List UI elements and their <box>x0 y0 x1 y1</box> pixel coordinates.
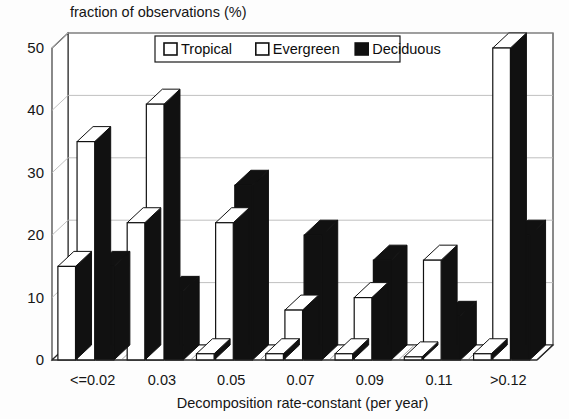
bar-side-face <box>510 33 526 360</box>
y-tick-label: 20 <box>27 226 44 243</box>
legend-item[interactable]: Tropical <box>164 41 232 57</box>
legend-label: Deciduous <box>372 41 441 57</box>
bar-front-face <box>196 354 214 360</box>
legend-swatch <box>256 43 269 55</box>
y-tick-label: 40 <box>27 101 44 118</box>
legend-label: Evergreen <box>273 41 340 57</box>
bar-front-face <box>335 354 353 360</box>
bar <box>216 208 250 360</box>
x-tick-label: <=0.02 <box>70 372 115 388</box>
bar-front-face <box>493 48 511 360</box>
bar-side-face <box>252 170 268 360</box>
bar-side-face <box>391 245 407 360</box>
x-tick-label: 0.05 <box>217 372 245 388</box>
legend-label: Tropical <box>181 41 232 57</box>
bar-side-face <box>95 127 111 360</box>
bar <box>493 33 527 360</box>
x-tick-labels: <=0.020.030.050.070.090.11>0.12 <box>70 372 527 388</box>
y-tick-label: 50 <box>27 39 44 56</box>
bar-front-face <box>474 354 492 360</box>
x-tick-label: 0.03 <box>148 372 176 388</box>
chart-title: fraction of observations (%) <box>70 4 247 20</box>
legend-swatch <box>355 43 368 55</box>
bar-side-face <box>441 245 457 360</box>
bar-front-face <box>58 266 76 360</box>
x-tick-label: >0.12 <box>490 372 527 388</box>
y-tick-label: 10 <box>27 289 44 306</box>
y-tick-label: 0 <box>36 351 44 368</box>
x-axis-label: Decomposition rate-constant (per year) <box>177 395 428 411</box>
bar-side-face <box>322 220 338 360</box>
chart-figure: 01020304050<=0.020.030.050.070.090.11>0.… <box>0 0 569 419</box>
bar <box>58 251 92 360</box>
x-tick-label: 0.07 <box>286 372 314 388</box>
x-tick-label: 0.09 <box>356 372 384 388</box>
bar-side-face <box>145 208 161 360</box>
legend: TropicalEvergreenDeciduous <box>155 36 441 62</box>
bar-side-face <box>76 251 92 360</box>
chart-canvas: 01020304050<=0.020.030.050.070.090.11>0.… <box>0 0 569 419</box>
y-tick-label: 30 <box>27 164 44 181</box>
bar <box>127 208 161 360</box>
bar-side-face <box>164 89 180 360</box>
bar-side-face <box>114 251 130 360</box>
x-tick-label: 0.11 <box>425 372 452 388</box>
legend-swatch <box>164 43 177 55</box>
bar-side-face <box>233 208 249 360</box>
bar-side-face <box>530 220 546 360</box>
bar-front-face <box>266 354 284 360</box>
legend-item[interactable]: Deciduous <box>355 41 441 57</box>
legend-item[interactable]: Evergreen <box>256 41 340 57</box>
